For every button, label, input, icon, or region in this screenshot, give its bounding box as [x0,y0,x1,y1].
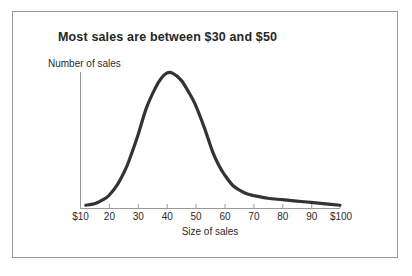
x-axis-label: Size of sales [80,226,340,237]
x-axis-ticks [81,204,341,209]
x-tick-label-9: $100 [321,211,361,222]
figure-container: Most sales are between $30 and $50 Numbe… [0,0,412,276]
distribution-curve [86,72,340,205]
